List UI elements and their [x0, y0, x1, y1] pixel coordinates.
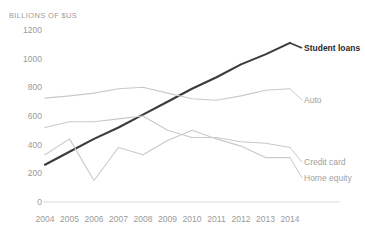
series-label-home-equity: Home equity — [304, 173, 352, 183]
series-label-student-loans: Student loans — [304, 43, 360, 53]
leader-line-auto — [290, 89, 302, 100]
series-line-credit-card — [45, 116, 290, 148]
series-line-auto — [45, 87, 290, 100]
series-line-student-loans — [45, 43, 290, 165]
leader-line-student-loans — [290, 43, 302, 48]
series-line-home-equity — [45, 130, 290, 180]
line-chart: BILLIONS OF $US 020040060080010001200 20… — [0, 0, 365, 242]
plot-area — [0, 0, 365, 242]
leader-line-home-equity — [290, 158, 302, 178]
series-label-auto: Auto — [304, 95, 322, 105]
series-label-credit-card: Credit card — [304, 157, 346, 167]
